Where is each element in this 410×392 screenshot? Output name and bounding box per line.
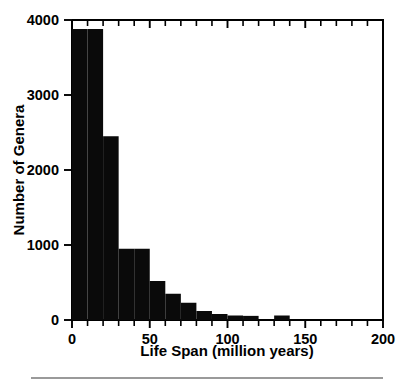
histogram-bar [165,294,181,320]
y-axis-tick-labels: 01000200030004000 [27,12,59,328]
histogram-bar [103,136,119,320]
footer-divider [31,377,383,379]
histogram-bar [150,281,166,320]
histogram-bar [196,311,212,320]
figure-container: 050100150200 01000200030004000 Life Span… [0,0,410,392]
histogram-bar [243,316,259,320]
histogram-bar [88,29,104,320]
histogram-bar [274,316,290,321]
histogram-chart: 050100150200 01000200030004000 Life Span… [0,0,410,392]
histogram-bar [72,29,88,320]
x-tick-label: 0 [68,331,76,347]
x-axis-title: Life Span (million years) [140,342,313,359]
histogram-bar [228,316,244,321]
histogram-bar [181,303,197,320]
histogram-bar [119,249,135,320]
x-tick-label: 200 [371,331,395,347]
y-tick-label: 0 [51,312,59,328]
y-tick-label: 3000 [27,87,59,103]
y-tick-label: 4000 [27,12,59,28]
y-axis-ticks [64,20,72,320]
y-tick-label: 2000 [27,162,59,178]
y-axis-title: Number of Genera [10,104,27,236]
y-tick-label: 1000 [27,237,59,253]
histogram-bar [134,249,150,320]
bars-group [72,29,290,320]
histogram-bar [212,314,228,320]
